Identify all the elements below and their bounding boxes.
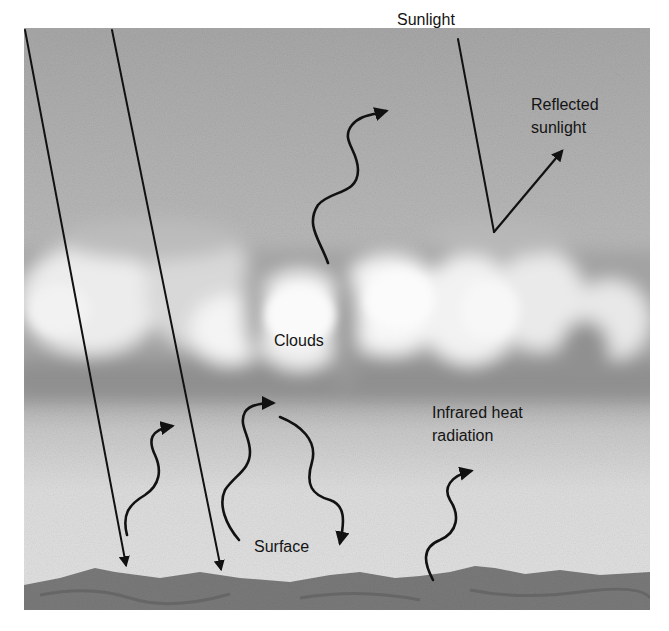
- label-reflected-sunlight-line2: sunlight: [531, 118, 586, 138]
- label-surface: Surface: [254, 537, 309, 557]
- label-infrared-line1: Infrared heat: [432, 403, 523, 423]
- label-infrared-line2: radiation: [432, 426, 493, 446]
- label-reflected-sunlight-line1: Reflected: [531, 95, 599, 115]
- label-sunlight: Sunlight: [397, 10, 455, 30]
- label-clouds: Clouds: [274, 331, 324, 351]
